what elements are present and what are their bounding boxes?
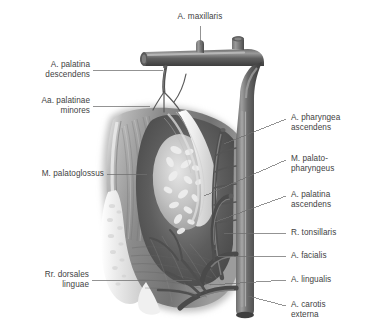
label-a-carotis-externa: A. carotis externa — [291, 300, 367, 320]
label-rr-dorsales-linguae: Rr. dorsales linguae — [0, 270, 89, 290]
label-a-facialis: A. facialis — [291, 251, 367, 261]
label-r-tonsillaris: R. tonsillaris — [291, 228, 367, 238]
label-m-palatopharyngeus: M. palato- pharyngeus — [291, 154, 367, 174]
label-a-pharyngea-ascendens: A. pharyngea ascendens — [291, 113, 367, 133]
a-maxillaris-vessel — [140, 36, 264, 66]
a-carotis-externa-vessel — [236, 62, 262, 318]
label-a-maxillaris: A. maxillaris — [150, 12, 250, 22]
label-aa-palatinae-minores: Aa. palatinae minores — [0, 96, 90, 116]
label-a-palatina-descendens: A. palatina descendens — [0, 60, 90, 80]
label-m-palatoglossus: M. palatoglossus — [0, 169, 104, 179]
label-a-palatina-ascendens: A. palatina ascendens — [291, 190, 367, 210]
a-palatina-descendens-vessel — [163, 66, 167, 92]
label-a-lingualis: A. lingualis — [291, 275, 367, 285]
